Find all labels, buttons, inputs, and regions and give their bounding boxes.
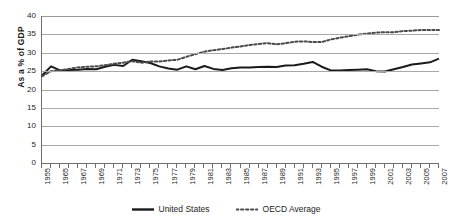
y-axis-tick-labels: 4035302520151050 [12, 0, 36, 160]
gridline [42, 145, 439, 146]
legend-dotted-line-icon [236, 205, 258, 214]
x-axis-tick-label: 1975 [152, 168, 160, 185]
x-axis-tick-label: 1987 [261, 168, 269, 185]
legend-solid-line-icon [132, 205, 154, 214]
x-axis-tick-label: 1985 [243, 168, 251, 185]
x-axis-tick-label: 1979 [189, 168, 197, 185]
x-axis-tick-label: 2001 [387, 168, 395, 185]
x-axis-tick [438, 164, 439, 168]
legend-item: United States [132, 204, 210, 214]
y-axis-tick-label: 15 [14, 104, 36, 112]
x-axis-tick-label: 1995 [333, 168, 341, 185]
series-line-united-states [42, 59, 439, 76]
gridline [42, 108, 439, 109]
gridline [42, 53, 439, 54]
x-axis-tick-label: 1967 [80, 168, 88, 185]
legend-item: OECD Average [236, 204, 321, 214]
chart-legend: United StatesOECD Average [0, 200, 452, 218]
x-axis-tick-label: 1973 [134, 168, 142, 185]
x-axis-tick-label: 1955 [44, 168, 52, 185]
y-axis-tick-label: 30 [14, 49, 36, 57]
x-axis-tick-label: 1977 [171, 168, 179, 185]
x-axis-tick-label: 2003 [405, 168, 413, 185]
gridline [42, 126, 439, 127]
plot-wrapper: 4035302520151050 19551965196719691971197… [0, 0, 452, 190]
y-axis-tick-label: 40 [14, 12, 36, 20]
y-axis-tick-label: 25 [14, 67, 36, 75]
legend-label: OECD Average [263, 204, 321, 214]
x-axis-tick-label: 2005 [423, 168, 431, 185]
gridline [42, 34, 439, 35]
x-axis-tick-label: 1981 [207, 168, 215, 185]
x-axis-tick-label: 1999 [369, 168, 377, 185]
x-axis-tick-labels: 1955196519671969197119731975197719791981… [41, 168, 438, 202]
chart-container: As a % of GDP 4035302520151050 195519651… [0, 0, 452, 222]
x-axis-tick-label: 1969 [98, 168, 106, 185]
x-axis-tick-label: 1991 [297, 168, 305, 185]
gridline [42, 90, 439, 91]
gridline [42, 71, 439, 72]
x-axis-tick-label: 1997 [351, 168, 359, 185]
y-axis-tick-label: 20 [14, 86, 36, 94]
gridline [42, 16, 439, 17]
plot-area [41, 16, 439, 164]
x-axis-tick-label: 1965 [62, 168, 70, 185]
legend-label: United States [159, 204, 210, 214]
y-axis-tick-label: 0 [14, 159, 36, 167]
x-axis-tick-label: 1993 [315, 168, 323, 185]
y-axis-tick-label: 5 [14, 141, 36, 149]
y-axis-tick-label: 10 [14, 122, 36, 130]
x-axis-tick-label: 1989 [279, 168, 287, 185]
x-axis-tick-label: 1983 [225, 168, 233, 185]
x-axis-tick-label: 2007 [441, 168, 449, 185]
x-axis-tick-label: 1971 [116, 168, 124, 185]
y-axis-tick-label: 35 [14, 30, 36, 38]
